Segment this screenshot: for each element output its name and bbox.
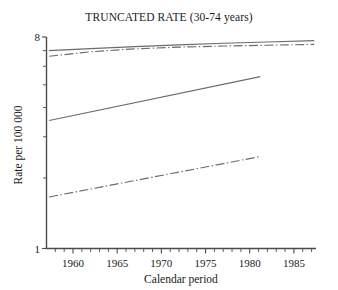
series-1-upper-solid <box>49 41 314 51</box>
x-axis: 196019651970197519801985 Calendar period <box>47 249 317 287</box>
x-axis-tick-label: 1960 <box>62 257 85 269</box>
x-axis-tick-label: 1975 <box>195 257 218 269</box>
chart-series-group <box>49 41 314 197</box>
series-2-upper-dashdot <box>49 44 314 56</box>
x-axis-tick-label: 1985 <box>283 257 306 269</box>
y-axis-tick-label-bottom: 1 <box>35 243 41 255</box>
x-axis-tick-label: 1970 <box>150 257 173 269</box>
y-axis: 8 1 Rate per 100 000 <box>12 31 47 255</box>
y-axis-tick-label-top: 8 <box>35 31 41 43</box>
x-axis-tick-label: 1980 <box>239 257 262 269</box>
series-4-lower-dashdot <box>49 157 260 197</box>
chart-page: TRUNCATED RATE (30-74 years) 8 1 Rate pe… <box>0 0 338 290</box>
x-axis-title: Calendar period <box>144 273 218 286</box>
chart-plot-area: 8 1 Rate per 100 000 1960196519701975198… <box>0 0 338 290</box>
x-axis-tick-labels: 196019651970197519801985 <box>62 257 305 269</box>
x-axis-ticks <box>55 249 311 254</box>
series-3-middle-solid <box>49 77 260 121</box>
y-axis-title: Rate per 100 000 <box>12 105 25 184</box>
x-axis-tick-label: 1965 <box>106 257 129 269</box>
